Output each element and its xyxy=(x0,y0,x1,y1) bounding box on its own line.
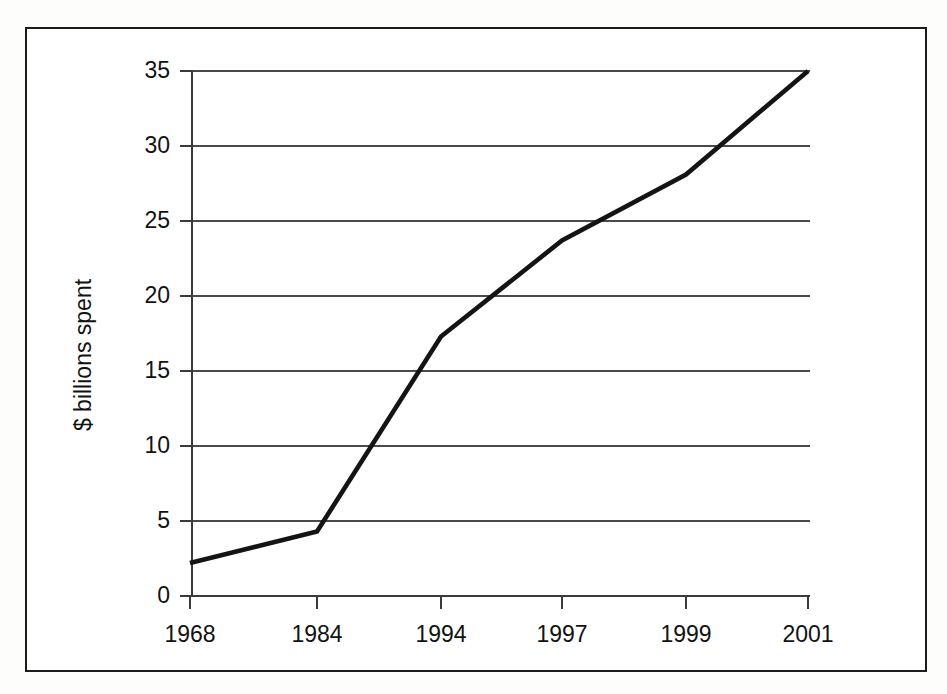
x-tick-label-2001: 2001 xyxy=(748,623,868,646)
y-axis-title-text: $ billions spent xyxy=(70,279,97,431)
y-tick-label-5: 5 xyxy=(112,509,170,532)
chart-figure: $ billions spent 35 30 25 20 15 10 5 0 1… xyxy=(0,0,947,694)
gridlines xyxy=(192,71,810,521)
y-tick-label-30: 30 xyxy=(112,134,170,157)
y-axis-title: $ billions spent xyxy=(68,255,98,455)
y-tick-label-15: 15 xyxy=(112,359,170,382)
x-tick-label-1994: 1994 xyxy=(381,623,501,646)
y-tick-label-0: 0 xyxy=(112,584,170,607)
y-tick-label-20: 20 xyxy=(112,284,170,307)
data-series-line xyxy=(190,71,808,563)
x-tick-label-1999: 1999 xyxy=(626,623,746,646)
y-tick-label-25: 25 xyxy=(112,209,170,232)
y-tick-marks xyxy=(180,71,192,596)
x-tick-label-1968: 1968 xyxy=(130,623,250,646)
x-tick-marks xyxy=(190,596,808,609)
y-tick-label-10: 10 xyxy=(112,434,170,457)
x-tick-label-1997: 1997 xyxy=(502,623,622,646)
y-tick-label-35: 35 xyxy=(112,59,170,82)
x-tick-label-1984: 1984 xyxy=(257,623,377,646)
